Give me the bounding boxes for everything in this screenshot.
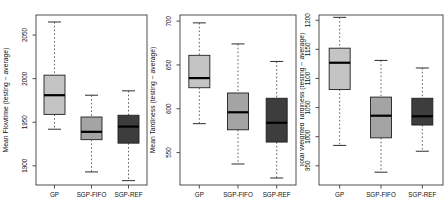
box-group-sgp-fifo: [228, 44, 249, 164]
box-group-gp: [44, 22, 65, 129]
box-group-sgp-ref: [266, 61, 287, 178]
iqr-box: [412, 98, 433, 125]
x-category-label: GP: [195, 191, 204, 198]
iqr-box: [266, 98, 287, 142]
y-tick-label: 2050: [22, 28, 29, 43]
boxplot-figure: 1900195020002050Mean Flowtime (testing −…: [0, 0, 448, 212]
y-tick-label: 650: [166, 59, 173, 70]
x-category-label: GP: [50, 191, 59, 198]
y-axis-title: Mean Flowtime (testing − average): [2, 48, 10, 153]
box-group-sgp-ref: [118, 91, 139, 181]
panel-mean-flowtime: 1900195020002050Mean Flowtime (testing −…: [0, 0, 150, 212]
y-tick-label: 1100: [305, 71, 312, 85]
x-category-label: SGP-FIFO: [366, 191, 396, 198]
iqr-box: [329, 48, 350, 89]
box-group-gp: [189, 23, 210, 124]
mean-flowtime-boxplot: 1900195020002050Mean Flowtime (testing −…: [0, 0, 150, 212]
box-group-gp: [329, 17, 350, 145]
iqr-box: [371, 97, 392, 138]
x-category-label: SGP-FIFO: [223, 191, 253, 198]
box-group-sgp-fifo: [371, 60, 392, 172]
x-category-label: SGP-FIFO: [77, 191, 107, 198]
y-tick-label: 1200: [305, 13, 312, 28]
y-tick-label: 1000: [305, 129, 312, 144]
y-tick-label: 1900: [22, 158, 29, 173]
total-weighted-tardiness-boxplot: 95010001050110011501200Total Weighted Ta…: [300, 0, 448, 212]
x-category-label: SGP-REF: [263, 191, 291, 198]
y-axis-title: Mean Tardiness (testing − average): [150, 47, 157, 154]
panel-mean-tardiness: 550600650700Mean Tardiness (testing − av…: [150, 0, 300, 212]
box-group-sgp-ref: [412, 68, 433, 151]
iqr-box: [118, 115, 139, 143]
panel-total-weighted-tardiness: 95010001050110011501200Total Weighted Ta…: [300, 0, 448, 212]
y-tick-label: 1150: [305, 42, 312, 56]
y-tick-label: 550: [166, 147, 173, 158]
box-group-sgp-fifo: [81, 95, 102, 172]
iqr-box: [81, 117, 102, 140]
iqr-box: [189, 55, 210, 87]
y-tick-label: 950: [305, 160, 312, 171]
y-tick-label: 1950: [22, 115, 29, 130]
x-category-label: GP: [335, 191, 344, 198]
mean-tardiness-boxplot: 550600650700Mean Tardiness (testing − av…: [150, 0, 300, 212]
y-tick-label: 2000: [22, 71, 29, 86]
y-tick-label: 700: [166, 15, 173, 26]
y-tick-label: 1050: [305, 100, 312, 115]
y-tick-label: 600: [166, 103, 173, 114]
x-category-label: SGP-REF: [408, 191, 436, 198]
x-category-label: SGP-REF: [115, 191, 143, 198]
